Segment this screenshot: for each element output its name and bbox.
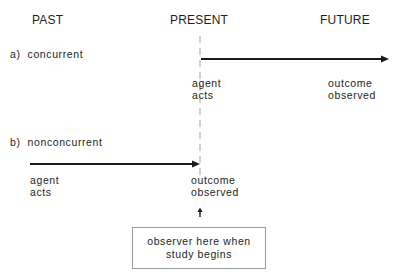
nonconcurrent-start-line1: agent — [30, 174, 59, 186]
nonconcurrent-end-line2: observed — [191, 186, 239, 198]
concurrent-start-line2: acts — [192, 89, 221, 101]
concurrent-end-line1: outcome — [328, 77, 376, 89]
header-past: PAST — [32, 13, 63, 27]
concurrent-start-line1: agent — [192, 77, 221, 89]
nonconcurrent-start-line2: acts — [30, 186, 59, 198]
concurrent-end-label: outcome observed — [328, 77, 376, 101]
concurrent-arrowhead-icon — [381, 56, 389, 63]
nonconcurrent-end-line1: outcome — [191, 174, 239, 186]
nonconcurrent-arrowhead-icon — [192, 161, 200, 168]
header-future: FUTURE — [320, 13, 370, 27]
observer-box: observer here when study begins — [132, 227, 266, 269]
observer-up-arrowhead-icon — [198, 208, 203, 213]
observer-box-text: observer here when study begins — [147, 235, 251, 261]
nonconcurrent-start-label: agent acts — [30, 174, 59, 198]
header-present: PRESENT — [170, 13, 228, 27]
nonconcurrent-end-label: outcome observed — [191, 174, 239, 198]
concurrent-start-label: agent acts — [192, 77, 221, 101]
concurrent-label: a) concurrent — [10, 48, 83, 60]
concurrent-end-line2: observed — [328, 89, 376, 101]
observer-box-line1: observer here when — [147, 235, 251, 247]
observer-box-line2: study begins — [166, 248, 232, 260]
nonconcurrent-label: b) nonconcurrent — [10, 136, 103, 148]
